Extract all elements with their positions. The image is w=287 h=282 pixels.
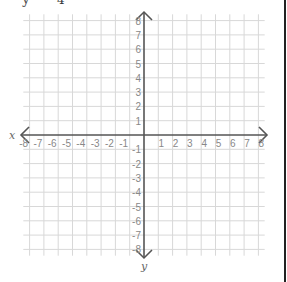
x-tick-label: -4 [76,138,85,149]
x-tick-label: -2 [105,138,114,149]
y-tick-label: 7 [135,30,141,41]
y-tick-label: -8 [132,244,141,255]
y-tick-label: 4 [135,73,141,84]
y-tick-label: 6 [135,44,141,55]
x-tick-label: -6 [48,138,57,149]
x-tick-label: 8 [259,138,265,149]
y-tick-label: -7 [132,230,141,241]
y-tick-label: 1 [135,116,141,127]
y-tick-label: 5 [135,59,141,70]
x-tick-label: 7 [244,138,250,149]
x-tick-label: 6 [230,138,236,149]
y-tick-label: -1 [132,144,141,155]
x-axis-label: x [9,129,16,142]
y-tick-label: 8 [135,16,141,27]
x-tick-label: 2 [173,138,179,149]
x-tick-label: -3 [91,138,100,149]
y-axis-label: y [140,260,148,273]
x-tick-label: 5 [216,138,222,149]
y-tick-label: -2 [132,159,141,170]
x-tick-label: 3 [187,138,193,149]
x-tick-label: -5 [62,138,71,149]
x-tick-label: 4 [201,138,207,149]
x-tick-label: -7 [33,138,42,149]
y-tick-label: -6 [132,216,141,227]
y-tick-label: 3 [135,87,141,98]
y-tick-label: -4 [132,187,141,198]
y-tick-label: -5 [132,202,141,213]
y-tick-label: 2 [135,101,141,112]
x-tick-label: 1 [159,138,165,149]
x-tick-label: -8 [19,138,28,149]
y-tick-label: -3 [132,173,141,184]
coordinate-plane: xy-8-7-6-5-4-3-2-11234567887654321-1-2-3… [0,0,287,282]
right-border [284,0,286,282]
x-tick-label: -1 [119,138,128,149]
